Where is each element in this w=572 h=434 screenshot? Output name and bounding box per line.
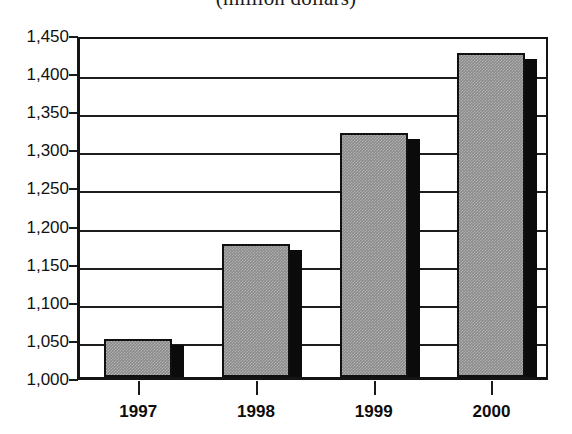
bar: [222, 244, 306, 377]
bar-body: [104, 339, 172, 377]
y-axis-tick-label: 1,150: [7, 256, 69, 276]
x-axis-tick-label: 1998: [237, 402, 275, 422]
x-axis-tick-mark: [256, 381, 258, 395]
y-axis-tick-label: 1,300: [7, 141, 69, 161]
bar: [457, 53, 541, 377]
bar-body: [222, 244, 290, 377]
y-axis-tick-label: 1,250: [7, 179, 69, 199]
x-axis-tick-mark: [138, 381, 140, 395]
y-axis-tick-label: 1,100: [7, 294, 69, 314]
chart-title: (million dollars): [0, 0, 572, 11]
x-axis-tick-label: 2000: [473, 402, 511, 422]
bar: [104, 339, 188, 377]
y-axis-tick-label: 1,400: [7, 65, 69, 85]
bar-body: [457, 53, 525, 377]
y-axis-tick-label: 1,200: [7, 218, 69, 238]
y-axis-labels: 1,4501,4001,3501,3001,2501,2001,1501,100…: [0, 0, 69, 434]
bar-body: [340, 133, 408, 377]
bar-chart: (million dollars) 1,4501,4001,3501,3001,…: [0, 0, 572, 434]
x-axis-tick-mark: [374, 381, 376, 395]
plot-area: [77, 37, 548, 380]
y-axis-tick-label: 1,350: [7, 103, 69, 123]
y-axis-tick-label: 1,000: [7, 370, 69, 390]
y-axis-tick-label: 1,050: [7, 332, 69, 352]
x-axis-tick-mark: [491, 381, 493, 395]
x-axis-tick-label: 1997: [119, 402, 157, 422]
bar: [340, 133, 424, 377]
x-axis-tick-label: 1999: [355, 402, 393, 422]
y-axis-tick-label: 1,450: [7, 27, 69, 47]
